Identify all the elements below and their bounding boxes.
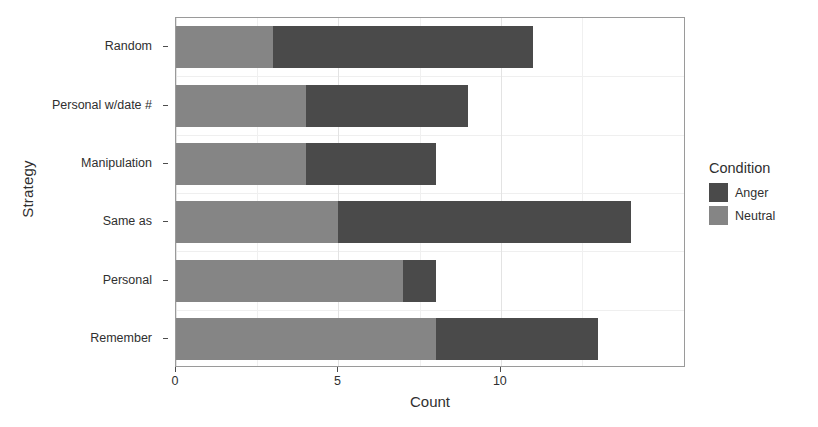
bar-segment[interactable]	[176, 26, 273, 68]
legend-entries: AngerNeutral	[709, 183, 809, 225]
y-axis-tick-mark	[163, 46, 168, 47]
y-axis-tick-label: Random	[105, 39, 152, 53]
grid-line-minor	[582, 18, 583, 366]
grid-line-horizontal	[176, 135, 684, 136]
x-axis-title: Count	[175, 393, 685, 410]
y-axis-title: Strategy	[19, 139, 39, 239]
legend-item[interactable]: Anger	[709, 183, 809, 202]
grid-line-horizontal	[176, 251, 684, 252]
y-axis-tick-mark	[163, 163, 168, 164]
bar-segment[interactable]	[176, 260, 403, 302]
bar-segment[interactable]	[176, 143, 306, 185]
y-axis-tick-mark	[163, 221, 168, 222]
x-axis-tick-label: 0	[155, 374, 195, 388]
legend: Condition AngerNeutral	[709, 160, 809, 229]
bar-row[interactable]	[176, 143, 684, 185]
legend-swatch	[709, 206, 728, 225]
bar-segment[interactable]	[403, 260, 435, 302]
x-axis-tick-mark	[175, 367, 176, 372]
y-axis-tick-label: Remember	[90, 331, 152, 345]
x-axis-tick-mark	[500, 367, 501, 372]
legend-item[interactable]: Neutral	[709, 206, 809, 225]
bar-row[interactable]	[176, 26, 684, 68]
y-axis-tick-mark	[163, 338, 168, 339]
legend-swatch	[709, 183, 728, 202]
bar-row[interactable]	[176, 85, 684, 127]
grid-line-horizontal	[176, 76, 684, 77]
legend-title: Condition	[709, 160, 809, 176]
y-axis-tick-label: Manipulation	[81, 156, 152, 170]
grid-line-major	[176, 18, 177, 366]
bar-row[interactable]	[176, 318, 684, 360]
bar-segment[interactable]	[338, 201, 630, 243]
y-axis-tick-label: Personal w/date #	[52, 98, 152, 112]
grid-line-major	[338, 18, 339, 366]
plot-panel	[175, 17, 685, 367]
grid-line-major	[501, 18, 502, 366]
bar-segment[interactable]	[306, 143, 436, 185]
grid-line-minor	[420, 18, 421, 366]
bar-row[interactable]	[176, 201, 684, 243]
legend-label: Neutral	[735, 209, 775, 223]
x-axis-tick-labels: 0510	[175, 367, 685, 395]
y-axis-tick-label: Personal	[103, 273, 152, 287]
bar-segment[interactable]	[176, 85, 306, 127]
x-axis-tick-label: 10	[480, 374, 520, 388]
bar-segment[interactable]	[436, 318, 598, 360]
y-axis-tick-label: Same as	[103, 214, 152, 228]
bar-segment[interactable]	[273, 26, 533, 68]
bar-segment[interactable]	[176, 318, 436, 360]
bar-row[interactable]	[176, 260, 684, 302]
x-axis-tick-label: 5	[317, 374, 357, 388]
bar-segment[interactable]	[306, 85, 468, 127]
y-axis-tick-mark	[163, 105, 168, 106]
grid-line-horizontal	[176, 310, 684, 311]
y-axis-tick-mark	[163, 280, 168, 281]
bar-segment[interactable]	[176, 201, 338, 243]
bar-chart: Strategy RandomPersonal w/date #Manipula…	[0, 0, 818, 427]
grid-line-horizontal	[176, 193, 684, 194]
x-axis-tick-mark	[337, 367, 338, 372]
grid-line-minor	[257, 18, 258, 366]
legend-label: Anger	[735, 186, 768, 200]
y-axis-tick-labels: RandomPersonal w/date #ManipulationSame …	[40, 17, 168, 367]
